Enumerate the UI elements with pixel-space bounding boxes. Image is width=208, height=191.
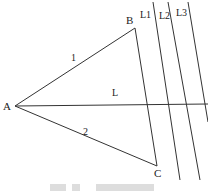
line-label-l2: L2 xyxy=(159,10,170,21)
figure-caption xyxy=(0,183,208,191)
line-label-l1: L1 xyxy=(140,9,151,20)
caption-glyphs-right xyxy=(96,184,154,191)
line-l2 xyxy=(168,2,200,180)
line-label-l3: L3 xyxy=(176,7,187,18)
geometry-diagram: A B C 1 2 L L1 L2 L3 xyxy=(0,0,208,191)
line-l1 xyxy=(153,2,180,180)
caption-glyphs-left xyxy=(50,184,66,191)
point-label-c: C xyxy=(154,167,161,179)
segment-bc xyxy=(135,28,157,166)
line-label-l: L xyxy=(112,87,118,98)
segment-label-1: 1 xyxy=(71,52,76,63)
point-label-a: A xyxy=(3,100,11,112)
line-l xyxy=(15,104,208,106)
segment-label-2: 2 xyxy=(83,126,88,137)
caption-glyphs-mid xyxy=(72,184,80,191)
point-label-b: B xyxy=(126,14,133,26)
